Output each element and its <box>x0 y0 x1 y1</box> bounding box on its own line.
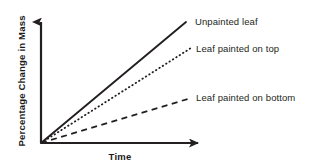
series-label-leaf-painted-on-top: Leaf painted on top <box>196 43 279 54</box>
series-line-leaf-painted-on-bottom <box>41 98 191 143</box>
series-line-leaf-painted-on-top <box>41 48 191 143</box>
chart-figure: Percentage Change in Mass Time Unpainted… <box>0 0 322 168</box>
chart-plot-area <box>0 0 322 168</box>
x-axis-title: Time <box>60 151 180 162</box>
y-axis-title: Percentage Change in Mass <box>16 17 27 147</box>
series-line-unpainted-leaf <box>41 22 186 143</box>
series-label-leaf-painted-on-bottom: Leaf painted on bottom <box>196 92 295 103</box>
series-label-unpainted-leaf: Unpainted leaf <box>195 16 258 27</box>
